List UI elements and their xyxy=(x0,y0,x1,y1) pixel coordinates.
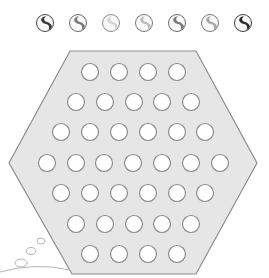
board-hole[interactable] xyxy=(197,185,214,202)
board-hole[interactable] xyxy=(82,246,99,263)
board-hole[interactable] xyxy=(212,155,229,172)
board-hole[interactable] xyxy=(97,94,114,111)
board-hole[interactable] xyxy=(126,216,143,233)
board-hole[interactable] xyxy=(169,64,186,81)
puzzle-page xyxy=(0,0,269,278)
board-hole[interactable] xyxy=(183,94,200,111)
board-hole[interactable] xyxy=(82,185,99,202)
board-hole[interactable] xyxy=(53,124,70,141)
board-hole[interactable] xyxy=(169,185,186,202)
board-hole[interactable] xyxy=(125,155,142,172)
board-hole[interactable] xyxy=(140,124,157,141)
hexagon-board xyxy=(0,0,269,278)
board-hole[interactable] xyxy=(169,124,186,141)
board-hole[interactable] xyxy=(53,185,70,202)
board-hole[interactable] xyxy=(140,64,157,81)
board-hole[interactable] xyxy=(140,185,157,202)
board-hole[interactable] xyxy=(154,155,171,172)
board-hole[interactable] xyxy=(82,64,99,81)
board-hole[interactable] xyxy=(154,216,171,233)
board-hole[interactable] xyxy=(126,94,143,111)
board-hole[interactable] xyxy=(111,64,128,81)
board-hole[interactable] xyxy=(39,155,56,172)
board-hole[interactable] xyxy=(97,216,114,233)
board-hole[interactable] xyxy=(140,246,157,263)
board-hole[interactable] xyxy=(111,246,128,263)
board-hole[interactable] xyxy=(111,124,128,141)
board-hole[interactable] xyxy=(68,94,85,111)
board-hole[interactable] xyxy=(183,155,200,172)
board-hole[interactable] xyxy=(96,155,113,172)
board-hole[interactable] xyxy=(68,216,85,233)
board-hole[interactable] xyxy=(111,185,128,202)
board-hole[interactable] xyxy=(154,94,171,111)
board-hole[interactable] xyxy=(197,124,214,141)
board-hole[interactable] xyxy=(68,155,85,172)
board-hole[interactable] xyxy=(82,124,99,141)
board-hole[interactable] xyxy=(169,246,186,263)
board-hole[interactable] xyxy=(183,216,200,233)
